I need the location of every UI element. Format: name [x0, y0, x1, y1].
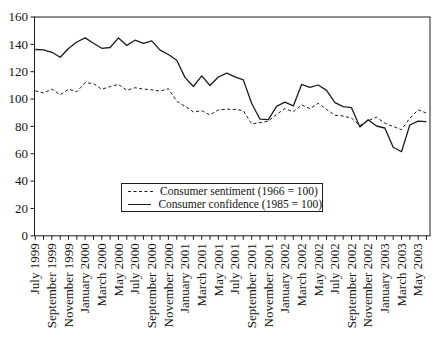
y-tick-label: 20 — [15, 201, 28, 216]
legend-label-confidence: Consumer confidence (1985 = 100) — [158, 198, 322, 211]
x-tick-label: March 2003 — [394, 243, 409, 306]
consumer-indices-chart-figure: 020406080100120140160July 1999September … — [0, 0, 442, 338]
x-tick-label: May 2001 — [211, 243, 226, 296]
x-tick-label: September 2002 — [344, 243, 359, 328]
x-tick-label: September 1999 — [44, 243, 59, 328]
x-tick-label: November 2001 — [261, 243, 276, 327]
y-tick-label: 160 — [9, 9, 29, 24]
x-tick-label: July 1999 — [28, 243, 43, 294]
x-tick-label: March 2001 — [194, 243, 209, 306]
y-tick-label: 80 — [15, 119, 28, 134]
dashed-line-sample-icon — [128, 191, 153, 192]
x-tick-label: March 2002 — [294, 243, 309, 306]
series-line-confidence — [35, 38, 426, 152]
x-tick-label: November 2000 — [161, 243, 176, 327]
line-chart-canvas: 020406080100120140160July 1999September … — [0, 0, 442, 338]
legend: Consumer sentiment (1966 = 100) Consumer… — [121, 183, 323, 212]
y-tick-label: 60 — [15, 146, 28, 161]
x-tick-label: July 2002 — [327, 243, 342, 294]
x-tick-label: September 2000 — [144, 243, 159, 328]
y-tick-label: 100 — [9, 91, 29, 106]
x-tick-label: November 1999 — [61, 243, 76, 327]
x-tick-label: July 2001 — [227, 243, 242, 294]
legend-item-sentiment: Consumer sentiment (1966 = 100) — [122, 185, 322, 198]
x-tick-label: November 2002 — [361, 243, 376, 327]
x-tick-label: September 2001 — [244, 243, 259, 328]
x-tick-label: July 2000 — [127, 243, 142, 294]
series-line-sentiment — [35, 83, 426, 130]
x-tick-label: January 2000 — [77, 243, 92, 313]
solid-line-sample-icon — [128, 204, 151, 205]
x-tick-label: May 2003 — [410, 243, 425, 296]
x-tick-label: January 2002 — [277, 243, 292, 313]
legend-item-confidence: Consumer confidence (1985 = 100) — [122, 198, 322, 211]
y-tick-label: 140 — [9, 37, 29, 52]
x-tick-label: May 2000 — [111, 243, 126, 296]
x-tick-label: January 2003 — [377, 243, 392, 313]
legend-label-sentiment: Consumer sentiment (1966 = 100) — [160, 185, 318, 198]
x-tick-label: May 2002 — [311, 243, 326, 296]
y-tick-label: 120 — [9, 64, 29, 79]
y-tick-label: 40 — [15, 173, 28, 188]
y-tick-label: 0 — [22, 228, 29, 243]
x-tick-label: January 2001 — [177, 243, 192, 313]
x-tick-label: March 2000 — [94, 243, 109, 306]
